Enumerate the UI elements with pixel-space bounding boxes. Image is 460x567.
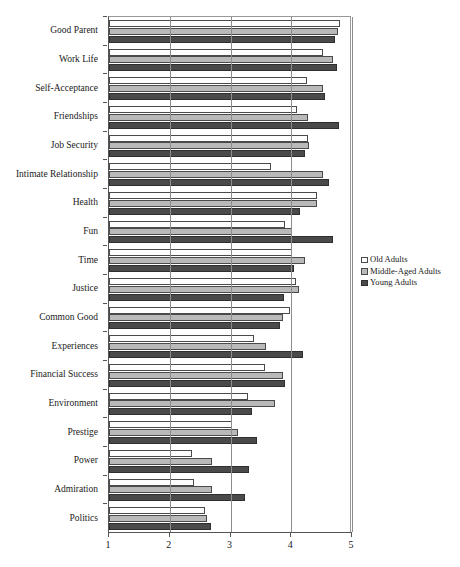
y-axis-tick <box>103 131 107 132</box>
bar <box>109 400 275 407</box>
bar <box>109 515 207 522</box>
bar <box>109 257 305 264</box>
figure: Good ParentWork LifeSelf-AcceptanceFrien… <box>0 0 460 567</box>
gridline <box>352 17 353 532</box>
bar-group <box>109 221 350 244</box>
bar <box>109 278 296 285</box>
bar <box>109 135 308 142</box>
bar-group <box>109 192 350 215</box>
y-axis-category-label: Friendships <box>54 111 98 121</box>
bar <box>109 106 297 113</box>
x-axis-tick-label: 4 <box>280 539 300 550</box>
y-axis-category-label: Fun <box>83 226 98 236</box>
bar <box>109 77 307 84</box>
y-axis-tick <box>103 475 107 476</box>
legend-label: Middle-Aged Adults <box>370 266 441 278</box>
bar-group <box>109 393 350 416</box>
legend-label: Young Adults <box>370 277 417 289</box>
bar <box>109 221 285 228</box>
gridline <box>291 17 292 532</box>
legend-swatch-icon <box>361 280 368 287</box>
bar-group <box>109 278 350 301</box>
bar-group <box>109 450 350 473</box>
y-axis-tick <box>103 446 107 447</box>
bar <box>109 286 299 293</box>
y-axis-tick <box>103 102 107 103</box>
bar-group <box>109 49 350 72</box>
bar <box>109 507 205 514</box>
bar <box>109 494 245 501</box>
bar <box>109 372 283 379</box>
bar <box>109 150 305 157</box>
y-axis-tick <box>103 274 107 275</box>
bar <box>109 307 290 314</box>
x-axis-tick <box>169 532 170 537</box>
bar-group <box>109 421 350 444</box>
x-axis-tick <box>108 532 109 537</box>
bar <box>109 179 329 186</box>
legend-item: Old Adults <box>361 254 441 266</box>
bar <box>109 163 271 170</box>
bar <box>109 466 249 473</box>
y-axis-tick <box>103 245 107 246</box>
y-axis-tick <box>103 389 107 390</box>
bar-group <box>109 479 350 502</box>
x-axis-tick-label: 1 <box>98 539 118 550</box>
bar <box>109 142 309 149</box>
bar-group <box>109 163 350 186</box>
bar <box>109 429 238 436</box>
y-axis-category-label: Job Security <box>51 140 98 150</box>
legend-item: Young Adults <box>361 277 441 289</box>
bar-group <box>109 307 350 330</box>
bar <box>109 236 333 243</box>
y-axis-category-label: Common Good <box>39 312 98 322</box>
bar <box>109 122 339 129</box>
y-axis-tick <box>103 45 107 46</box>
y-axis-tick <box>103 188 107 189</box>
gridline <box>231 17 232 532</box>
bar <box>109 28 338 35</box>
y-axis-tick <box>103 417 107 418</box>
bar <box>109 36 335 43</box>
bar <box>109 294 284 301</box>
y-axis-category-label: Time <box>78 255 98 265</box>
bar <box>109 56 333 63</box>
y-axis-labels: Good ParentWork LifeSelf-AcceptanceFrien… <box>0 16 104 532</box>
bar <box>109 20 340 27</box>
y-axis-category-label: Politics <box>69 513 98 523</box>
bar <box>109 393 248 400</box>
y-axis-category-label: Self-Acceptance <box>35 83 98 93</box>
bar-group <box>109 507 350 530</box>
y-axis-category-label: Justice <box>72 283 98 293</box>
y-axis-category-label: Work Life <box>59 54 98 64</box>
y-axis-category-label: Financial Success <box>30 369 98 379</box>
bar <box>109 364 265 371</box>
y-axis-category-label: Health <box>73 197 98 207</box>
bar <box>109 200 317 207</box>
y-axis-category-label: Environment <box>48 398 98 408</box>
y-axis-tick <box>103 159 107 160</box>
legend-item: Middle-Aged Adults <box>361 266 441 278</box>
y-axis-tick <box>103 303 107 304</box>
bar <box>109 114 308 121</box>
x-axis-tick <box>230 532 231 537</box>
y-axis-category-label: Intimate Relationship <box>16 169 98 179</box>
bar-group <box>109 77 350 100</box>
bar <box>109 458 212 465</box>
legend-label: Old Adults <box>370 254 407 266</box>
bar <box>109 437 257 444</box>
bar <box>109 64 337 71</box>
y-axis-tick <box>103 73 107 74</box>
x-axis-tick <box>290 532 291 537</box>
bar <box>109 479 194 486</box>
bar <box>109 265 294 272</box>
y-axis-category-label: Power <box>74 455 98 465</box>
chart-legend: Old AdultsMiddle-Aged AdultsYoung Adults <box>361 254 441 289</box>
bar-group <box>109 20 350 43</box>
bar-group <box>109 135 350 158</box>
bar <box>109 351 303 358</box>
bar <box>109 192 317 199</box>
bar <box>109 380 285 387</box>
bar <box>109 335 254 342</box>
bar-group <box>109 249 350 272</box>
